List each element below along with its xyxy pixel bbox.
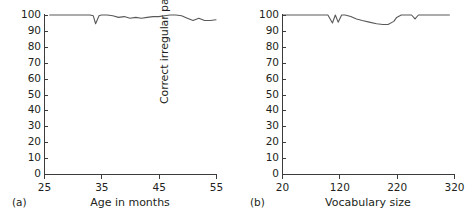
panel-b-y-tick-label-30: 30 [266,119,279,131]
panel-b-x-tick-label-120: 120 [330,181,350,193]
panel-b-x-tick-320: 320 [454,175,455,179]
panel-a-y-tick-label-10: 10 [28,151,41,163]
panel-b-y-tick-100: 100 [282,15,286,16]
panel-a-y-tick-40: 40 [44,110,48,111]
panel-a-x-axis-label: Age in months [40,196,220,209]
panel-b-y-tick-70: 70 [282,63,286,64]
panel-b-y-tick-40: 40 [282,110,286,111]
panel-b-y-tick-label-40: 40 [266,103,279,115]
panel-b-y-axis-label: Correct irregular past tense (%) [156,0,174,104]
panel-a-y-tick-90: 90 [44,31,48,32]
figure-container: Correct irregular past tense (%) Age in … [0,0,475,217]
panel-a-y-tick-10: 10 [44,158,48,159]
panel-a-y-tick-label-100: 100 [21,8,41,20]
panel-a-y-tick-label-40: 40 [28,103,41,115]
panel-b-y-tick-label-60: 60 [266,72,279,84]
panel-b-x-axis-line [282,174,455,175]
panel-b-y-tick-label-20: 20 [266,135,279,147]
panel-a-y-tick-80: 80 [44,47,48,48]
panel-b-x-tick-20: 20 [282,175,283,179]
panel-b-y-tick-label-50: 50 [266,88,279,100]
panel-a-x-tick-25: 25 [44,175,45,179]
panel-a-x-axis-line [44,174,217,175]
panel-b-y-tick-80: 80 [282,47,286,48]
panel-a: Correct irregular past tense (%) Age in … [0,0,237,217]
panel-b-y-tick-50: 50 [282,95,286,96]
panel-b-y-tick-20: 20 [282,142,286,143]
panel-b-y-tick-label-80: 80 [266,40,279,52]
panel-b-y-tick-label-10: 10 [266,151,279,163]
panel-a-y-tick-100: 100 [44,15,48,16]
panel-a-y-tick-label-50: 50 [28,88,41,100]
panel-b-y-tick-30: 30 [282,126,286,127]
panel-b-series-svg [282,15,454,174]
panel-a-x-tick-label-45: 45 [152,181,165,193]
panel-b-y-tick-label-100: 100 [259,8,279,20]
panel-a-series-svg [44,15,216,174]
panel-a-y-tick-label-30: 30 [28,119,41,131]
panel-b-x-tick-label-20: 20 [276,181,289,193]
panel-a-y-tick-label-20: 20 [28,135,41,147]
panel-a-x-tick-35: 35 [101,175,102,179]
panel-a-y-tick-label-90: 90 [28,24,41,36]
panel-a-y-tick-label-80: 80 [28,40,41,52]
panel-b-x-tick-220: 220 [397,175,398,179]
panel-a-y-tick-30: 30 [44,126,48,127]
panel-a-x-tick-label-35: 35 [95,181,108,193]
panel-b-x-tick-120: 120 [339,175,340,179]
panel-b-plot-area [282,15,454,174]
panel-a-y-tick-label-0: 0 [34,167,41,179]
panel-b-y-tick-90: 90 [282,31,286,32]
panel-a-x-tick-label-55: 55 [210,181,223,193]
panel-a-plot-area [44,15,216,174]
panel-b-x-tick-label-220: 220 [387,181,407,193]
panel-a-y-tick-50: 50 [44,95,48,96]
panel-b-y-tick-60: 60 [282,79,286,80]
panel-a-y-tick-label-60: 60 [28,72,41,84]
panel-a-y-tick-label-70: 70 [28,56,41,68]
panel-b: Correct irregular past tense (%) Vocabul… [238,0,475,217]
panel-a-x-tick-label-25: 25 [38,181,51,193]
panel-b-y-tick-10: 10 [282,158,286,159]
panel-b-x-axis-label: Vocabulary size [278,196,458,209]
panel-a-x-tick-45: 45 [159,175,160,179]
panel-b-series-line [283,15,449,25]
panel-b-y-tick-label-0: 0 [272,167,279,179]
panel-a-y-tick-20: 20 [44,142,48,143]
panel-a-y-tick-70: 70 [44,63,48,64]
panel-a-tag: (a) [12,196,27,208]
panel-b-y-tick-label-70: 70 [266,56,279,68]
panel-a-x-tick-55: 55 [216,175,217,179]
panel-b-x-tick-label-320: 320 [444,181,464,193]
panel-a-series-line [50,15,216,24]
panel-a-y-tick-60: 60 [44,79,48,80]
panel-b-tag: (b) [250,196,265,208]
panel-b-y-tick-label-90: 90 [266,24,279,36]
